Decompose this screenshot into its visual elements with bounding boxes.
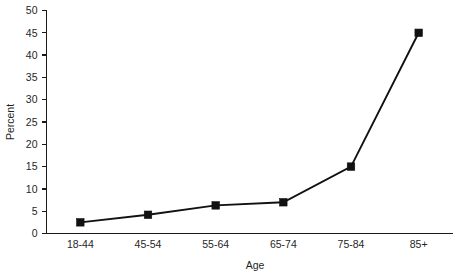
data-point-marker bbox=[347, 163, 355, 171]
data-point-marker bbox=[212, 202, 220, 210]
y-tick-label: 35 bbox=[26, 71, 38, 83]
y-tick-label: 0 bbox=[32, 227, 38, 239]
y-tick-label: 50 bbox=[26, 4, 38, 16]
y-tick-label: 25 bbox=[26, 116, 38, 128]
data-point-marker bbox=[144, 211, 152, 219]
x-tick-label: 18-44 bbox=[67, 238, 94, 250]
x-tick-label: 75-84 bbox=[338, 238, 365, 250]
x-tick-label: 65-74 bbox=[270, 238, 297, 250]
y-tick-label: 40 bbox=[26, 49, 38, 61]
y-tick-label: 5 bbox=[32, 205, 38, 217]
chart-canvas: 05101520253035404550 18-4445-5455-6465-7… bbox=[0, 0, 467, 277]
y-tick-label: 15 bbox=[26, 160, 38, 172]
x-tick-label: 45-54 bbox=[135, 238, 162, 250]
y-tick-label: 20 bbox=[26, 138, 38, 150]
line-chart: 05101520253035404550 18-4445-5455-6465-7… bbox=[0, 0, 467, 277]
y-tick-label: 45 bbox=[26, 27, 38, 39]
data-point-marker bbox=[77, 219, 85, 227]
y-tick-label: 10 bbox=[26, 183, 38, 195]
x-tick-label: 55-64 bbox=[202, 238, 229, 250]
y-axis-title: Percent bbox=[4, 104, 16, 140]
x-tick-label: 85+ bbox=[410, 238, 428, 250]
chart-background bbox=[0, 0, 467, 277]
data-point-marker bbox=[280, 199, 288, 207]
y-tick-label: 30 bbox=[26, 93, 38, 105]
x-axis-title: Age bbox=[246, 259, 265, 271]
data-point-marker bbox=[415, 29, 423, 37]
